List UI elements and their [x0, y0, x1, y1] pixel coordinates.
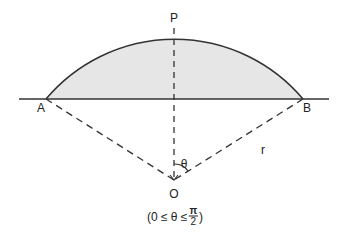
- label-B: B: [303, 102, 311, 114]
- label-r: r: [261, 144, 265, 156]
- label-P: P: [170, 12, 178, 24]
- pi-over-two-fraction: π 2: [188, 206, 198, 227]
- label-A: A: [37, 102, 45, 114]
- dashed-radius-OB: [174, 99, 303, 180]
- label-theta: θ: [181, 158, 188, 170]
- dashed-radius-OA: [46, 99, 174, 180]
- caption-close: ): [199, 209, 203, 223]
- shaded-segment: [46, 39, 303, 99]
- label-O: O: [169, 188, 178, 200]
- fraction-denominator: 2: [189, 217, 197, 227]
- angle-range-caption: (0 ≤ θ ≤ π 2 ): [147, 206, 203, 227]
- caption-open: (0 ≤ θ ≤: [147, 209, 188, 223]
